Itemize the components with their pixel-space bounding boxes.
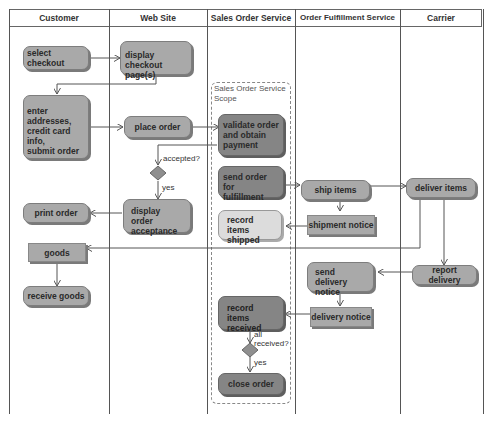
node-receive-goods[interactable]: receive goods xyxy=(23,286,89,306)
node-ship-items[interactable]: ship items xyxy=(301,180,370,200)
node-validate-order[interactable]: validate order and obtain payment xyxy=(218,114,284,156)
node-deliver-items[interactable]: deliver items xyxy=(406,178,476,198)
guard-all-received: all received? xyxy=(254,330,289,348)
node-label: record items xyxy=(227,215,273,235)
node-label: receive goods xyxy=(27,291,84,301)
node-label: credit card info, xyxy=(27,126,85,146)
node-label: close order xyxy=(228,379,274,389)
guard-line: received? xyxy=(254,339,289,348)
node-label: validate order xyxy=(223,120,279,130)
node-close-order[interactable]: close order xyxy=(218,373,284,395)
node-label: fulfillment xyxy=(223,192,279,202)
decision-diamond xyxy=(150,166,166,180)
node-display-checkout[interactable]: display checkout page(s) xyxy=(120,41,192,75)
node-label: enter xyxy=(27,106,85,116)
node-label: send order for xyxy=(223,172,279,192)
node-send-delivery-notice[interactable]: send delivery notice xyxy=(307,262,374,292)
object-delivery-notice[interactable]: delivery notice xyxy=(310,307,372,327)
node-display-order-acceptance[interactable]: display order acceptance xyxy=(123,199,191,233)
node-label: send delivery xyxy=(315,267,366,287)
node-record-items-shipped[interactable]: record items shipped xyxy=(218,210,282,240)
node-enter-addresses[interactable]: enter addresses, credit card info, submi… xyxy=(23,95,89,159)
node-label: report delivery xyxy=(415,265,474,285)
guard-line: all xyxy=(254,330,289,339)
node-label: ship items xyxy=(314,185,356,195)
node-label: place order xyxy=(135,122,181,132)
object-goods[interactable]: goods xyxy=(28,243,86,262)
guard-accepted: accepted? xyxy=(163,154,200,163)
node-label: display checkout xyxy=(125,50,187,70)
node-place-order[interactable]: place order xyxy=(124,116,191,138)
node-label: acceptance xyxy=(131,226,183,236)
node-label: page(s) xyxy=(125,70,187,80)
node-label: deliver items xyxy=(415,183,467,193)
node-label: display order xyxy=(131,206,183,226)
node-record-items-received[interactable]: record items received xyxy=(218,296,284,330)
node-label: print order xyxy=(35,208,78,218)
node-label: addresses, xyxy=(27,116,85,126)
node-label: submit order xyxy=(27,146,85,156)
guard-yes: yes xyxy=(254,358,266,367)
node-label: payment xyxy=(223,140,279,150)
node-select-checkout[interactable]: select checkout xyxy=(23,46,89,70)
node-label: shipment notice xyxy=(308,220,373,230)
guard-yes: yes xyxy=(162,183,174,192)
object-shipment-notice[interactable]: shipment notice xyxy=(307,215,375,235)
node-label: goods xyxy=(44,248,70,258)
node-label: and obtain xyxy=(223,130,279,140)
node-label: select checkout xyxy=(27,48,85,68)
node-send-order-for-fulfillment[interactable]: send order for fulfillment xyxy=(218,166,284,198)
node-report-delivery[interactable]: report delivery xyxy=(412,265,477,285)
node-label: record items xyxy=(227,303,275,323)
node-print-order[interactable]: print order xyxy=(23,203,89,223)
node-label: shipped xyxy=(227,235,273,245)
node-label: notice xyxy=(315,287,366,297)
node-label: delivery notice xyxy=(311,312,371,322)
